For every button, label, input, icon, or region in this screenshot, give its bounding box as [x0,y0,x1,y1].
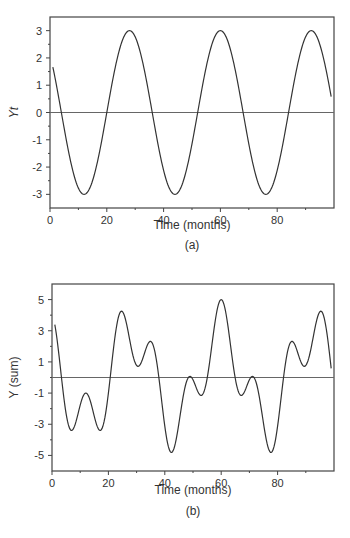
y-tick-label: 5 [38,294,44,306]
y-tick-label: 2 [36,52,42,64]
x-tick-label: 0 [47,214,53,226]
y-axis-title: Yt [7,106,21,118]
y-axis-title: Y (sum) [7,357,21,399]
y-tick-label: -1 [34,387,44,399]
x-axis-title: Time (months) [154,218,231,232]
y-tick-label: 3 [38,325,44,337]
y-tick-label: -1 [32,134,42,146]
y-tick-label: -3 [34,418,44,430]
x-tick-label: 20 [102,477,114,489]
figure-caption: (a) [185,238,200,252]
y-tick-label: 1 [36,79,42,91]
x-tick-label: 80 [271,477,283,489]
x-tick-label: 20 [101,214,113,226]
y-tick-label: 1 [38,356,44,368]
x-tick-label: 0 [49,477,55,489]
x-axis-title: Time (months) [155,483,232,497]
series-line [55,300,331,453]
y-tick-label: 3 [36,25,42,37]
y-tick-label: -3 [32,188,42,200]
y-tick-label: 0 [36,107,42,119]
figure-caption: (b) [186,504,201,518]
chart-b: 531-1-3-5020406080Time (months)Y (sum)(b… [7,284,334,518]
y-tick-label: -2 [32,161,42,173]
y-tick-label: -5 [34,449,44,461]
figure: 3210-1-2-3020406080Time (months)Yt(a) 53… [0,0,350,538]
chart-a: 3210-1-2-3020406080Time (months)Yt(a) [7,17,334,252]
x-tick-label: 80 [271,214,283,226]
